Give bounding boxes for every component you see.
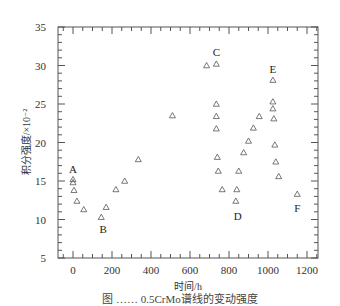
triangle-marker	[71, 187, 77, 192]
point-label: F	[294, 202, 300, 214]
triangle-marker	[241, 150, 247, 155]
x-tick-label: 1200	[296, 264, 319, 276]
triangle-marker	[122, 178, 128, 183]
x-tick-label: 200	[104, 264, 121, 276]
triangle-marker	[273, 159, 279, 164]
triangle-marker	[250, 125, 256, 130]
triangle-marker	[213, 113, 219, 118]
x-tick-label: 600	[182, 264, 199, 276]
triangle-marker	[294, 191, 300, 196]
y-tick-label: 5	[41, 252, 47, 264]
triangle-marker	[135, 156, 141, 161]
triangle-marker	[215, 168, 221, 173]
figure-caption: 图 …… 0.5CrMo谱线的变动强度	[60, 290, 300, 306]
triangle-marker	[270, 106, 276, 111]
triangle-marker	[98, 214, 104, 219]
plot-frame	[58, 27, 318, 258]
x-tick-label: 0	[70, 264, 76, 276]
y-tick-label: 20	[35, 137, 47, 149]
y-tick-label: 15	[35, 175, 47, 187]
y-tick-label: 10	[35, 214, 47, 226]
triangle-marker	[103, 204, 109, 209]
y-tick-label: 35	[35, 21, 47, 33]
triangle-marker	[204, 63, 210, 68]
y-tick-label: 30	[35, 60, 47, 72]
triangle-marker	[246, 138, 252, 143]
x-tick-label: 400	[143, 264, 160, 276]
triangle-marker	[270, 77, 276, 82]
triangle-marker	[234, 186, 240, 191]
y-axis-title: 积分强度/×10⁻²	[20, 109, 32, 176]
triangle-marker	[272, 142, 278, 147]
point-label: E	[270, 63, 277, 75]
point-annotations: ABCDEF	[69, 46, 300, 235]
triangle-marker	[256, 113, 262, 118]
triangle-marker	[214, 154, 220, 159]
data-points	[70, 61, 300, 219]
point-label: A	[69, 163, 77, 175]
triangle-marker	[236, 168, 242, 173]
x-axis-ticks: 020040060080010001200	[63, 27, 318, 276]
y-tick-label: 25	[35, 98, 47, 110]
point-label: C	[213, 46, 220, 58]
triangle-marker	[271, 116, 277, 121]
x-tick-label: 1000	[257, 264, 280, 276]
triangle-marker	[213, 61, 219, 66]
triangle-marker	[276, 173, 282, 178]
triangle-marker	[219, 186, 225, 191]
triangle-marker	[169, 113, 175, 118]
point-label: B	[100, 223, 107, 235]
triangle-marker	[81, 206, 87, 211]
triangle-marker	[74, 198, 80, 203]
triangle-marker	[113, 186, 119, 191]
x-tick-label: 800	[221, 264, 238, 276]
triangle-marker	[270, 99, 276, 104]
triangle-marker	[233, 198, 239, 203]
point-label: D	[234, 210, 242, 222]
triangle-marker	[213, 101, 219, 106]
triangle-marker	[213, 126, 219, 131]
